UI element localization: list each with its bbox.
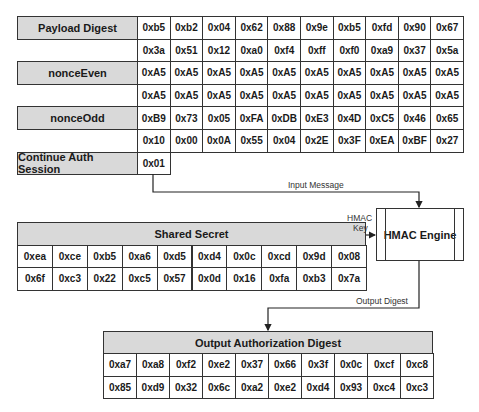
engine-right-bar	[454, 209, 455, 260]
input-message-arrow	[153, 174, 419, 207]
hmac-engine-label: HMAC Engine	[384, 229, 457, 241]
engine-left-bar	[385, 209, 386, 260]
input-message-label: Input Message	[288, 180, 344, 190]
hmac-key-label-line2: Key	[353, 223, 368, 233]
output-digest-arrow	[268, 260, 419, 330]
hmac-key-label-line1: HMAC	[347, 213, 372, 223]
output-digest-label: Output Digest	[356, 296, 408, 306]
connector-lines	[0, 0, 479, 412]
hmac-engine-box: HMAC Engine	[376, 208, 464, 261]
